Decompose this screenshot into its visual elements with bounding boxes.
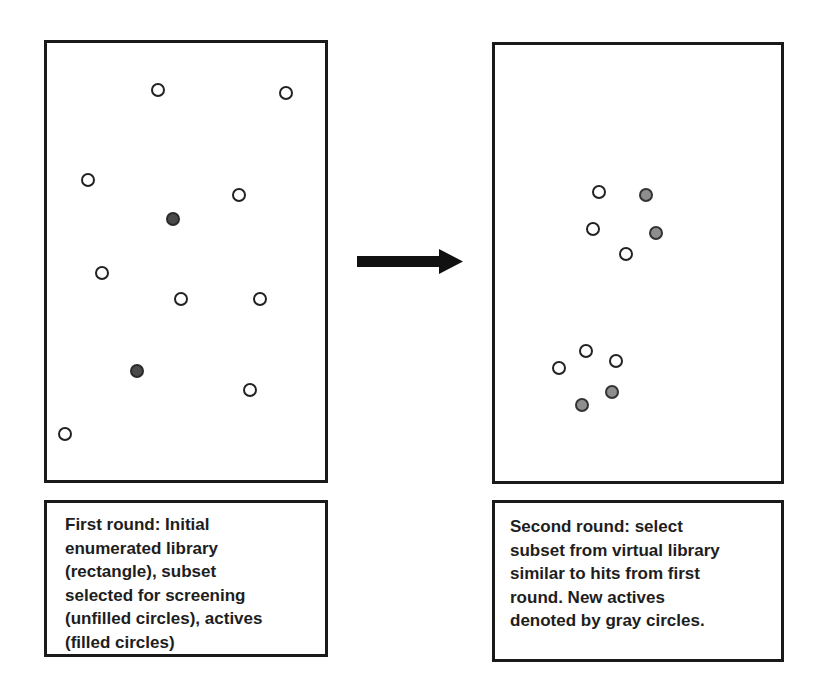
unfilled-circle-icon bbox=[279, 86, 293, 100]
caption-line: subset from virtual library bbox=[510, 539, 769, 563]
unfilled-circle-icon bbox=[95, 266, 109, 280]
unfilled-circle-icon bbox=[592, 185, 606, 199]
unfilled-circle-icon bbox=[58, 427, 72, 441]
caption-line: similar to hits from first bbox=[510, 562, 769, 586]
caption-line: denoted by gray circles. bbox=[510, 609, 769, 633]
unfilled-circle-icon bbox=[174, 292, 188, 306]
caption-line: selected for screening bbox=[65, 584, 313, 608]
filled-circle-icon bbox=[130, 364, 144, 378]
gray-circle-icon bbox=[575, 398, 589, 412]
unfilled-circle-icon bbox=[619, 247, 633, 261]
first-round-library-panel bbox=[44, 40, 328, 483]
caption-line: (filled circles) bbox=[65, 631, 313, 655]
first-round-caption: First round: Initial enumerated library … bbox=[44, 500, 328, 657]
caption-line: Second round: select bbox=[510, 515, 769, 539]
second-round-caption: Second round: select subset from virtual… bbox=[492, 500, 784, 662]
unfilled-circle-icon bbox=[81, 173, 95, 187]
filled-circle-icon bbox=[166, 212, 180, 226]
gray-circle-icon bbox=[649, 226, 663, 240]
unfilled-circle-icon bbox=[609, 354, 623, 368]
unfilled-circle-icon bbox=[243, 383, 257, 397]
caption-line: round. New actives bbox=[510, 586, 769, 610]
unfilled-circle-icon bbox=[586, 222, 600, 236]
caption-line: (unfilled circles), actives bbox=[65, 607, 313, 631]
unfilled-circle-icon bbox=[579, 344, 593, 358]
unfilled-circle-icon bbox=[552, 361, 566, 375]
gray-circle-icon bbox=[605, 385, 619, 399]
unfilled-circle-icon bbox=[253, 292, 267, 306]
right-arrow-icon bbox=[355, 246, 467, 278]
second-round-library-panel bbox=[492, 42, 784, 484]
unfilled-circle-icon bbox=[151, 83, 165, 97]
caption-line: (rectangle), subset bbox=[65, 560, 313, 584]
unfilled-circle-icon bbox=[232, 188, 246, 202]
caption-line: enumerated library bbox=[65, 537, 313, 561]
caption-line: First round: Initial bbox=[65, 513, 313, 537]
gray-circle-icon bbox=[639, 188, 653, 202]
